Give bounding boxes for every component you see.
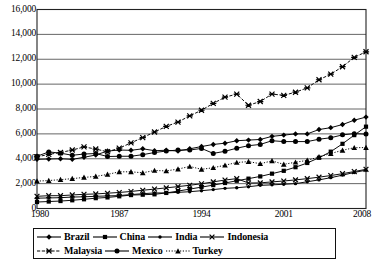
data-point-diamond <box>258 137 263 142</box>
y-axis-tick-label: 8,000 <box>16 104 36 114</box>
data-point-square <box>58 199 62 203</box>
data-point-star <box>210 101 216 106</box>
data-point-diamond <box>46 234 51 239</box>
data-point-star <box>187 113 193 118</box>
data-point-star <box>69 148 75 153</box>
data-point-diamond <box>352 117 357 122</box>
x-axis-tick-label: 2001 <box>275 209 293 220</box>
data-point-circle-filled <box>246 143 251 148</box>
data-point-circle-filled <box>352 131 357 136</box>
data-point-diamond <box>316 127 321 132</box>
legend-marker-china-icon <box>92 231 118 243</box>
data-point-triangle <box>246 159 252 164</box>
data-point-circle-small <box>223 187 226 190</box>
y-axis-tick-label: 2,000 <box>16 179 36 189</box>
data-point-circle-small <box>176 191 179 194</box>
legend-item-mexico[interactable]: Mexico <box>104 245 165 257</box>
data-point-star <box>198 108 204 113</box>
legend-label: India <box>173 231 199 243</box>
data-point-square <box>364 125 368 129</box>
data-point-circle-filled <box>223 149 228 154</box>
data-point-circle-filled <box>105 154 110 159</box>
data-point-circle-small <box>188 190 191 193</box>
legend-marker-mexico-icon <box>104 245 130 257</box>
legend-marker-india-icon <box>147 231 173 243</box>
y-axis-tick-label: 10,000 <box>11 79 36 89</box>
data-point-circle-filled <box>93 151 98 156</box>
data-point-triangle <box>222 162 228 167</box>
data-point-circle-small <box>247 185 250 188</box>
data-point-star <box>175 120 181 125</box>
legend-label: Brazil <box>62 231 92 243</box>
data-point-triangle <box>351 145 357 150</box>
data-point-star <box>140 135 146 140</box>
legend-label: Malaysia <box>62 245 104 257</box>
series-layer <box>34 49 369 204</box>
data-point-triangle <box>234 160 240 165</box>
data-point-star <box>81 144 87 149</box>
data-point-circle-filled <box>58 151 63 156</box>
line-chart-svg <box>0 0 372 225</box>
data-point-circle-filled <box>70 153 75 158</box>
legend-marker-malaysia-icon <box>36 245 62 257</box>
data-point-diamond <box>140 146 145 151</box>
data-point-square <box>70 198 74 202</box>
data-point-diamond <box>128 148 133 153</box>
data-point-diamond <box>363 114 368 119</box>
data-point-circle-small <box>153 191 156 194</box>
data-point-diamond <box>222 141 227 146</box>
data-point-square <box>282 169 286 173</box>
data-point-circle-filled <box>270 138 275 143</box>
data-point-circle-filled <box>258 142 263 147</box>
y-axis-tick-label: 16,000 <box>11 5 36 15</box>
legend-label: Indonesia <box>225 231 270 243</box>
data-point-diamond <box>293 131 298 136</box>
data-point-circle-filled <box>140 152 145 157</box>
data-point-star <box>234 92 240 97</box>
data-point-triangle <box>175 248 181 253</box>
data-point-star <box>46 249 52 254</box>
chart-figure: 02,0004,0006,0008,00010,00012,00014,0001… <box>0 0 372 263</box>
data-point-square <box>102 235 106 239</box>
data-point-circle-filled <box>328 135 333 140</box>
series-malaysia <box>34 49 369 159</box>
legend-row: BrazilChinaIndiaIndonesia <box>36 230 333 244</box>
series-line <box>37 117 366 159</box>
y-axis-tick-label: 12,000 <box>11 55 36 65</box>
legend-marker-brazil-icon <box>36 231 62 243</box>
data-point-circle-small <box>158 235 161 238</box>
legend-item-china[interactable]: China <box>92 231 148 243</box>
data-point-triangle <box>46 178 52 183</box>
legend-item-turkey[interactable]: Turkey <box>165 245 225 257</box>
legend-item-brazil[interactable]: Brazil <box>36 231 92 243</box>
legend-item-malaysia[interactable]: Malaysia <box>36 245 104 257</box>
x-axis-tick-label: 1994 <box>192 209 210 220</box>
data-point-circle-filled <box>117 154 122 159</box>
data-point-circle-filled <box>115 249 120 254</box>
x-axis-tick-label: 2008 <box>353 209 371 220</box>
data-point-diamond <box>281 132 286 137</box>
data-point-square <box>47 199 51 203</box>
legend-item-indonesia[interactable]: Indonesia <box>199 231 270 243</box>
legend-item-india[interactable]: India <box>147 231 199 243</box>
data-point-diamond <box>234 138 239 143</box>
data-point-diamond <box>246 137 251 142</box>
x-axis-tick-label: 1987 <box>110 209 128 220</box>
data-point-circle-small <box>282 183 285 186</box>
data-point-star <box>245 103 251 108</box>
data-point-circle-filled <box>199 146 204 151</box>
data-point-star <box>339 64 345 69</box>
data-point-circle-filled <box>152 150 157 155</box>
data-point-star <box>316 77 322 82</box>
legend-row: MalaysiaMexicoTurkey <box>36 244 333 258</box>
data-point-square <box>258 174 262 178</box>
data-point-circle-filled <box>340 132 345 137</box>
data-point-circle-small <box>212 188 215 191</box>
data-point-circle-filled <box>211 151 216 156</box>
data-point-triangle <box>363 145 369 150</box>
data-point-star <box>292 90 298 95</box>
data-point-circle-filled <box>281 139 286 144</box>
y-axis-tick-label: 6,000 <box>16 129 36 139</box>
data-point-square <box>293 165 297 169</box>
data-point-circle-small <box>141 192 144 195</box>
